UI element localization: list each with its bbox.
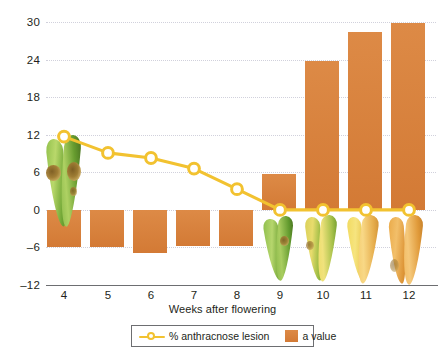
y-tick-0: 0 xyxy=(8,204,40,216)
line-marker-week-9 xyxy=(275,205,286,216)
x-axis-line xyxy=(46,285,438,286)
line-marker-week-5 xyxy=(103,148,114,159)
legend-label-anthracnose: % anthracnose lesion xyxy=(169,330,269,342)
y-axis-tick-labels: 30 24 18 12 6 0 –6 –12 xyxy=(8,22,40,285)
legend-item-a-value: a value xyxy=(285,330,336,342)
y-tick-neg6: –6 xyxy=(8,241,40,253)
x-tick-8: 8 xyxy=(217,289,257,301)
line-marker-week-11 xyxy=(361,205,372,216)
legend-square-swatch-icon xyxy=(285,330,298,342)
x-tick-5: 5 xyxy=(88,289,128,301)
x-tick-9: 9 xyxy=(260,289,300,301)
y-tick-24: 24 xyxy=(8,54,40,66)
line-marker-week-10 xyxy=(318,205,329,216)
legend-item-anthracnose: % anthracnose lesion xyxy=(139,330,269,342)
y-tick-neg12: –12 xyxy=(8,279,40,291)
legend-line-marker-icon xyxy=(139,331,165,342)
x-axis-title: Weeks after flowering xyxy=(0,303,445,315)
legend-label-a-value: a value xyxy=(302,330,336,342)
line-marker-week-4 xyxy=(59,131,70,142)
chart-figure: 30 24 18 12 6 0 –6 –12 xyxy=(0,0,445,361)
line-series-anthracnose xyxy=(46,22,436,285)
x-tick-4: 4 xyxy=(44,289,84,301)
line-marker-week-6 xyxy=(146,153,157,164)
chart-legend: % anthracnose lesion a value xyxy=(131,325,314,347)
line-marker-week-8 xyxy=(232,184,243,195)
plot-area xyxy=(46,22,436,285)
line-marker-week-12 xyxy=(404,205,415,216)
x-tick-11: 11 xyxy=(346,289,386,301)
y-tick-12: 12 xyxy=(8,129,40,141)
y-tick-30: 30 xyxy=(8,16,40,28)
line-path xyxy=(64,137,409,210)
y-tick-6: 6 xyxy=(8,166,40,178)
x-tick-6: 6 xyxy=(131,289,171,301)
x-tick-12: 12 xyxy=(389,289,429,301)
x-tick-10: 10 xyxy=(303,289,343,301)
line-marker-week-7 xyxy=(189,163,200,174)
x-tick-7: 7 xyxy=(174,289,214,301)
y-tick-18: 18 xyxy=(8,91,40,103)
